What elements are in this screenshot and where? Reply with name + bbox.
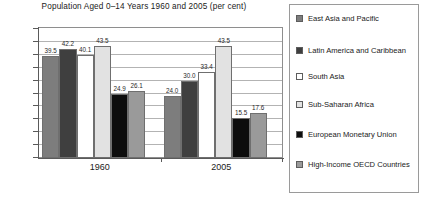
chart-plot-panel: Population Aged 0–14 Years 1960 and 2005… xyxy=(0,0,288,197)
bar xyxy=(232,118,249,158)
y-tick-mark xyxy=(33,28,38,29)
x-category-label: 2005 xyxy=(161,162,283,172)
bar xyxy=(128,91,145,158)
legend-item-label: South Asia xyxy=(308,72,418,82)
legend-item[interactable]: East Asia and Pacific xyxy=(296,14,418,24)
legend-swatch-icon xyxy=(296,131,303,138)
chart-legend: East Asia and PacificLatin America and C… xyxy=(289,4,419,193)
y-tick-mark xyxy=(33,144,38,145)
bars-layer: 39.542.240.143.524.926.124.030.033.443.5… xyxy=(39,28,283,158)
legend-item[interactable]: High-Income OECD Countries xyxy=(296,160,418,170)
legend-item[interactable]: South Asia xyxy=(296,72,418,82)
bar xyxy=(94,46,111,158)
y-tick-mark xyxy=(33,54,38,55)
legend-swatch-icon xyxy=(296,161,303,168)
y-tick-mark xyxy=(33,105,38,106)
legend-swatch-icon xyxy=(296,101,303,108)
y-tick-mark xyxy=(33,131,38,132)
x-tick-mark xyxy=(282,158,283,162)
bar xyxy=(77,55,94,158)
legend-item-label: Sub-Saharan Africa xyxy=(308,100,418,110)
legend-item-label: East Asia and Pacific xyxy=(308,14,418,24)
legend-item-label: Latin America and Caribbean xyxy=(308,46,418,56)
bar xyxy=(250,113,267,158)
chart-figure: Population Aged 0–14 Years 1960 and 2005… xyxy=(0,0,422,197)
bar-value-label: 26.1 xyxy=(125,82,148,89)
bar xyxy=(215,46,232,158)
legend-swatch-icon xyxy=(296,73,303,80)
legend-item[interactable]: Sub-Saharan Africa xyxy=(296,100,418,110)
y-tick-mark xyxy=(33,80,38,81)
legend-swatch-icon xyxy=(296,47,303,54)
bar-value-label: 17.6 xyxy=(247,104,270,111)
bar xyxy=(198,72,215,158)
y-tick-mark xyxy=(33,157,38,158)
bar xyxy=(181,81,198,158)
bar-value-label: 43.5 xyxy=(212,37,235,44)
legend-item[interactable]: European Monetary Union xyxy=(296,130,418,140)
legend-item-label: European Monetary Union xyxy=(308,130,418,140)
chart-title: Population Aged 0–14 Years 1960 and 2005… xyxy=(0,2,288,11)
y-tick-mark xyxy=(33,67,38,68)
bar xyxy=(164,96,181,158)
bar-value-label: 43.5 xyxy=(91,37,114,44)
legend-swatch-icon xyxy=(296,15,303,22)
legend-item-label: High-Income OECD Countries xyxy=(308,160,418,170)
bar xyxy=(111,94,128,158)
x-category-label: 1960 xyxy=(39,162,161,172)
legend-item[interactable]: Latin America and Caribbean xyxy=(296,46,418,56)
bar xyxy=(59,49,76,158)
bar xyxy=(42,56,59,158)
y-tick-mark xyxy=(33,93,38,94)
y-tick-mark xyxy=(33,118,38,119)
y-tick-mark xyxy=(33,41,38,42)
